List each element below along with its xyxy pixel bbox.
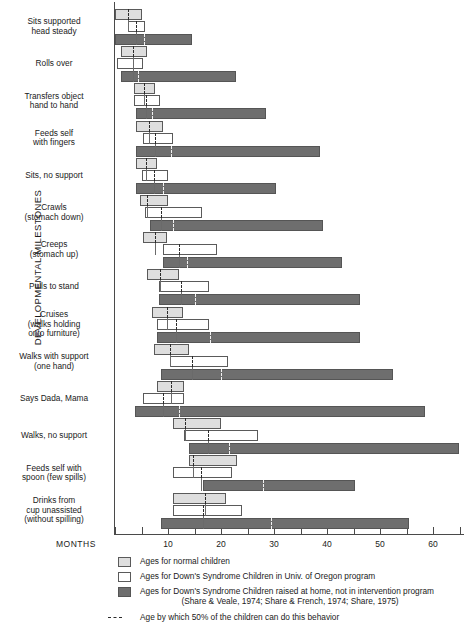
median-marker	[146, 158, 148, 169]
y-axis-line	[114, 2, 115, 534]
bar-raised-at-home	[163, 257, 343, 268]
bar-raised-at-home	[161, 369, 393, 380]
leader-line	[136, 32, 137, 45]
row-label-line: with fingers	[0, 138, 108, 148]
median-marker	[187, 257, 189, 268]
row-label-line: (without spilling)	[0, 515, 108, 525]
legend-item-oregon: Ages for Down's Syndrome Children in Uni…	[118, 571, 470, 584]
bar-normal-children	[140, 195, 168, 206]
x-axis-line	[114, 534, 464, 535]
median-marker	[263, 480, 265, 491]
median-marker	[144, 83, 146, 94]
median-marker	[210, 332, 212, 343]
row-label: Rolls over	[0, 59, 108, 69]
row-label: Transfers objecthand to hand	[0, 92, 108, 111]
x-tick-60	[433, 527, 434, 534]
bar-oregon-program	[173, 505, 242, 516]
median-marker	[167, 307, 169, 318]
median-marker	[181, 281, 183, 292]
bar-raised-at-home	[159, 294, 360, 305]
bar-oregon-program	[143, 133, 173, 144]
row-label: Walks, no support	[0, 431, 108, 441]
row-label-line: Walks, no support	[0, 431, 108, 441]
row-label-line: hand to hand	[0, 101, 108, 111]
row-label: Sits, no support	[0, 171, 108, 181]
row-label-line: Pulls to stand	[0, 282, 108, 292]
bar-raised-at-home	[203, 480, 355, 491]
median-marker	[179, 244, 181, 255]
leader-line	[160, 280, 161, 292]
median-marker	[179, 406, 181, 417]
row-label: Sits supportedhead steady	[0, 17, 108, 36]
median-marker	[221, 369, 223, 380]
x-tick-0	[115, 527, 116, 534]
bar-normal-children	[173, 493, 227, 504]
x-tick-5	[142, 527, 143, 534]
leader-line	[146, 169, 147, 181]
leader-line	[128, 20, 129, 32]
x-axis-unit-label: MONTHS	[56, 539, 96, 549]
median-marker	[271, 518, 273, 529]
legend-item-normal: Ages for normal children	[118, 556, 470, 569]
leader-line	[192, 367, 193, 380]
leader-line	[171, 392, 172, 404]
row-label: Feeds selfwith fingers	[0, 129, 108, 148]
median-marker	[192, 356, 194, 367]
median-marker	[146, 95, 148, 106]
leader-line	[133, 57, 134, 69]
developmental-milestones-chart: DEVELOPMENTAL MILESTONES 102030405060 MO…	[0, 0, 474, 623]
leader-line	[155, 243, 156, 255]
bar-raised-at-home	[115, 34, 192, 45]
row-label-line: Says Dada, Mama	[0, 394, 108, 404]
median-marker	[163, 393, 165, 404]
leader-line	[147, 206, 148, 218]
bar-oregon-program	[163, 244, 217, 255]
median-marker	[136, 21, 138, 32]
legend-citation: (Share & Veale, 1974; Share & French, 19…	[140, 596, 440, 606]
bar-oregon-program	[157, 319, 209, 330]
legend-swatch-home-icon	[118, 587, 131, 597]
median-marker	[229, 443, 231, 454]
bar-normal-children	[173, 418, 221, 429]
median-marker	[128, 9, 130, 20]
median-marker	[152, 108, 154, 119]
bar-normal-children	[189, 455, 237, 466]
median-marker	[155, 133, 157, 144]
row-label: Pulls to stand	[0, 282, 108, 292]
row-label: Feeds self withspoon (few spills)	[0, 464, 108, 483]
legend-label-oregon: Ages for Down's Syndrome Children in Uni…	[140, 571, 470, 581]
x-tick-65	[460, 527, 461, 534]
leader-line	[193, 466, 194, 478]
leader-line	[181, 292, 182, 305]
row-label: Cruises(walks holdingonto furniture)	[0, 310, 108, 339]
bar-normal-children	[147, 269, 179, 280]
bar-oregon-program	[159, 281, 209, 292]
row-label-line: (one hand)	[0, 362, 108, 372]
median-marker	[193, 455, 195, 466]
leader-line	[163, 404, 164, 417]
row-label-line: head steady	[0, 27, 108, 37]
median-marker	[133, 46, 135, 57]
x-tick-label-10: 10	[163, 539, 172, 549]
row-label: Creeps(stomach up)	[0, 240, 108, 259]
leader-line	[185, 429, 186, 441]
leader-line	[179, 255, 180, 268]
bar-raised-at-home	[157, 332, 360, 343]
leader-line	[133, 69, 134, 82]
median-marker	[205, 493, 207, 504]
row-label-line: (stomach down)	[0, 213, 108, 223]
leader-line	[146, 106, 147, 119]
median-marker	[201, 467, 203, 478]
median-marker	[149, 121, 151, 132]
leader-line	[176, 330, 177, 343]
bar-oregon-program	[170, 356, 228, 367]
row-label: Drinks fromcup unassisted(without spilli…	[0, 496, 108, 525]
x-tick-label-40: 40	[322, 539, 331, 549]
leader-line	[167, 318, 168, 330]
x-tick-label-60: 60	[428, 539, 437, 549]
bar-raised-at-home	[150, 220, 323, 231]
bar-raised-at-home	[136, 146, 320, 157]
legend: Ages for normal children Ages for Down's…	[118, 556, 470, 623]
median-marker	[144, 34, 146, 45]
median-marker	[160, 269, 162, 280]
